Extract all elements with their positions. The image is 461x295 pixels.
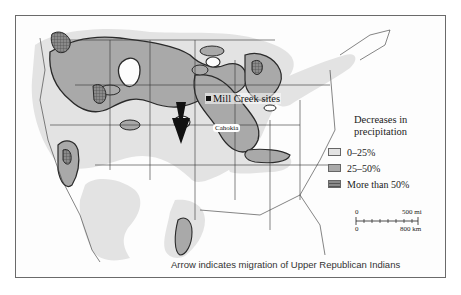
swatch-light-icon bbox=[328, 148, 341, 156]
scale-top-zero: 0 bbox=[355, 208, 359, 216]
zone-dark-wisconsin bbox=[252, 60, 262, 74]
zone-medium-small-2 bbox=[192, 65, 208, 75]
zone-medium-arkansas bbox=[245, 149, 290, 163]
map-caption: Arrow indicates migration of Upper Repub… bbox=[171, 259, 400, 270]
scale-miles: 500 mi bbox=[402, 208, 422, 216]
swatch-dark-icon bbox=[328, 180, 341, 188]
legend-title: Decreases in precipitation bbox=[354, 114, 446, 138]
legend-item-dark: More than 50% bbox=[328, 176, 446, 192]
zone-none-dakota bbox=[206, 57, 220, 67]
mill-creek-label: Mill Creek sites bbox=[205, 93, 281, 104]
scale-bottom-zero: 0 bbox=[355, 225, 359, 233]
scale-labels: 0 500 mi 0 800 km bbox=[352, 208, 422, 234]
legend: Decreases in precipitation 0–25% 25–50% … bbox=[328, 114, 446, 192]
site-marker-icon bbox=[206, 96, 211, 101]
swatch-medium-icon bbox=[328, 164, 341, 172]
zone-none-lakes bbox=[264, 105, 276, 111]
zone-dark-idaho bbox=[93, 84, 106, 103]
legend-item-light: 0–25% bbox=[328, 144, 446, 160]
legend-item-medium: 25–50% bbox=[328, 160, 446, 176]
zone-dark-california bbox=[63, 149, 71, 164]
cahokia-label: Cahokia bbox=[213, 124, 240, 132]
scale-km: 800 km bbox=[400, 225, 421, 233]
zone-light-southwest bbox=[80, 179, 141, 260]
zone-medium-small-3 bbox=[200, 46, 224, 56]
